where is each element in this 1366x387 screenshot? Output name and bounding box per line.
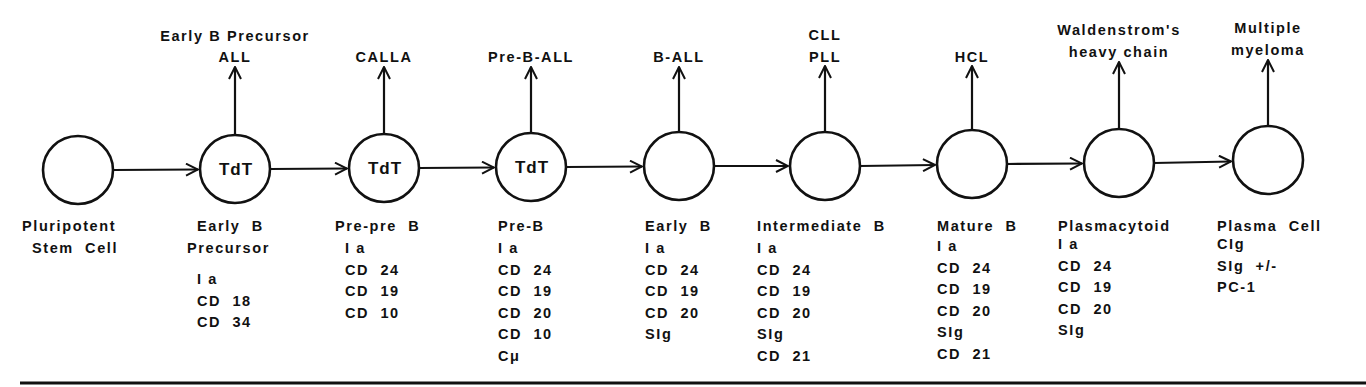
surface-marker-label: CD 24 xyxy=(645,262,700,278)
cell-circle xyxy=(1084,129,1154,197)
cell-node-mature-b xyxy=(937,130,1007,198)
surface-marker-label: CD 19 xyxy=(937,281,992,297)
surface-marker-label: Cμ xyxy=(498,348,521,364)
surface-marker-label: I a xyxy=(498,240,519,256)
surface-marker-label: SIg xyxy=(645,326,672,342)
progression-arrow-icon xyxy=(1007,164,1082,165)
stage-name-label: Pre-B xyxy=(498,218,545,234)
surface-marker-label: SIg xyxy=(1058,322,1085,338)
cell-node-pluripotent-stem-cell xyxy=(43,136,113,204)
stage-name-label: Early B xyxy=(645,218,712,234)
surface-marker-label: CD 21 xyxy=(757,348,812,364)
malignancy-label: CALLA xyxy=(355,49,412,65)
malignancy-label: CLL xyxy=(809,27,842,43)
surface-marker-label: I a xyxy=(197,271,218,287)
progression-arrow-icon xyxy=(270,169,347,170)
surface-marker-label: CD 19 xyxy=(645,283,700,299)
surface-marker-label: CD 20 xyxy=(757,305,812,321)
b-cell-differentiation-diagram: TdTTdTTdT Early B PrecursorALLCALLAPre-B… xyxy=(0,0,1366,387)
surface-marker-label: CD 24 xyxy=(345,262,400,278)
surface-marker-label: CD 18 xyxy=(197,293,252,309)
surface-marker-label: CD 20 xyxy=(645,305,700,321)
cell-node-pre-b: TdT xyxy=(496,133,566,201)
malignancy-labels: Early B PrecursorALLCALLAPre-B-ALLB-ALLC… xyxy=(160,20,1305,65)
malignancy-label: Multiple xyxy=(1234,20,1302,36)
malignancy-label: Pre-B-ALL xyxy=(488,49,574,65)
cell-circle xyxy=(790,132,860,200)
cell-node-early-b-precursor: TdT xyxy=(200,135,270,203)
malignancy-label: HCL xyxy=(955,49,990,65)
progression-arrow-icon xyxy=(566,167,642,168)
surface-marker-label: CD 24 xyxy=(1058,258,1113,274)
malignancy-label: Early B Precursor xyxy=(160,28,310,44)
surface-marker-label: CD 19 xyxy=(757,283,812,299)
surface-marker-label: SIg xyxy=(937,324,964,340)
cell-node-pre-pre-b: TdT xyxy=(349,134,419,202)
surface-marker-label: PC-1 xyxy=(1217,279,1256,295)
surface-marker-label: I a xyxy=(757,240,778,256)
stage-name-label: Stem Cell xyxy=(32,240,118,256)
tdt-marker-label: TdT xyxy=(368,159,402,178)
malignancy-label: heavy chain xyxy=(1069,44,1170,60)
surface-marker-label: CD 24 xyxy=(757,262,812,278)
stage-name-label: Early B xyxy=(197,218,264,234)
cell-node-early-b xyxy=(644,132,714,200)
surface-marker-label: CD 20 xyxy=(498,305,553,321)
cell-circle xyxy=(644,132,714,200)
malignancy-label: PLL xyxy=(809,49,841,65)
surface-marker-label: CD 19 xyxy=(1058,279,1113,295)
malignancy-label: myeloma xyxy=(1231,42,1305,58)
cell-node-intermediate-b xyxy=(790,132,860,200)
cell-circle xyxy=(937,130,1007,198)
surface-marker-label: CD 34 xyxy=(197,314,252,330)
cell-node-plasma-cell xyxy=(1233,126,1303,194)
surface-marker-label: I a xyxy=(937,238,958,254)
stage-name-label: Pluripotent xyxy=(22,218,116,234)
progression-arrow-icon xyxy=(419,168,494,169)
cell-circle xyxy=(1233,126,1303,194)
surface-marker-label: CD 10 xyxy=(345,305,400,321)
surface-marker-label: I a xyxy=(645,240,666,256)
surface-marker-label: CD 24 xyxy=(498,262,553,278)
cell-node-plasmacytoid xyxy=(1084,129,1154,197)
surface-marker-label: CIg xyxy=(1217,236,1245,252)
stage-name-label: Pre-pre B xyxy=(335,218,420,234)
stage-labels: PluripotentStem CellEarly BPrecursorI aC… xyxy=(22,218,1322,364)
surface-marker-label: CD 21 xyxy=(937,346,992,362)
stage-name-label: Mature B xyxy=(937,218,1017,234)
tdt-marker-label: TdT xyxy=(219,160,253,179)
malignancy-label: ALL xyxy=(219,49,252,65)
malignancy-label: B-ALL xyxy=(653,49,705,65)
surface-marker-label: SIg xyxy=(757,326,784,342)
stage-name-label: Intermediate B xyxy=(757,218,886,234)
stage-name-label: Precursor xyxy=(187,240,270,256)
cell-circle xyxy=(43,136,113,204)
progression-arrow-icon xyxy=(113,170,198,171)
surface-marker-label: I a xyxy=(1058,236,1079,252)
tdt-marker-label: TdT xyxy=(515,158,549,177)
progression-arrow-icon xyxy=(1154,162,1231,164)
surface-marker-label: I a xyxy=(345,240,366,256)
malignancy-label: Waldenstrom's xyxy=(1057,22,1181,38)
malignancy-arrows xyxy=(235,60,1268,135)
surface-marker-label: CD 10 xyxy=(498,326,553,342)
surface-marker-label: CD 20 xyxy=(1058,301,1113,317)
surface-marker-label: CD 20 xyxy=(937,303,992,319)
surface-marker-label: SIg +/- xyxy=(1217,258,1278,274)
surface-marker-label: CD 19 xyxy=(345,283,400,299)
progression-arrow-icon xyxy=(860,165,935,166)
surface-marker-label: CD 24 xyxy=(937,260,992,276)
stage-name-label: Plasma Cell xyxy=(1217,218,1322,234)
cell-stage-nodes: TdTTdTTdT xyxy=(43,126,1303,204)
stage-name-label: Plasmacytoid xyxy=(1058,218,1171,234)
surface-marker-label: CD 19 xyxy=(498,283,553,299)
